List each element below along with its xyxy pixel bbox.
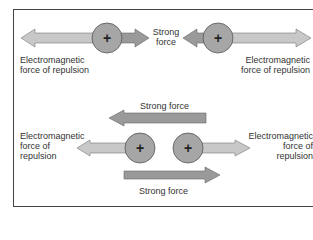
strong-force-label-upper: Strong force (140, 101, 189, 111)
strong-force-arrow-left (109, 110, 206, 126)
strong-force-arrow-right (124, 167, 220, 183)
label-line: Strong (146, 27, 186, 37)
em-repulsion-label-left: Electromagnetic force of repulsion (20, 55, 89, 75)
label-line: Electromagnetic (230, 131, 313, 141)
em-repulsion-label-bottom-left: Electromagnetic force of repulsion (20, 131, 85, 161)
em-repulsion-arrow-right (230, 29, 311, 47)
strong-force-label-top: Strong force (146, 27, 186, 47)
label-line: Electromagnetic (20, 131, 85, 141)
label-line: Electromagnetic (212, 55, 310, 65)
strong-force-label-lower: Strong force (139, 186, 188, 196)
label-line: repulsion (230, 151, 313, 161)
em-repulsion-label-right: Electromagnetic force of repulsion (212, 55, 310, 75)
plus-icon: + (184, 140, 192, 156)
label-line: Electromagnetic (20, 55, 89, 65)
em-repulsion-label-bottom-right: Electromagnetic force of repulsion (230, 131, 313, 161)
plus-icon: + (103, 30, 111, 46)
label-line: force of repulsion (212, 65, 310, 75)
em-repulsion-arrow-left (77, 140, 128, 156)
plus-icon: + (136, 140, 144, 156)
plus-icon: + (214, 30, 222, 46)
strong-force-arrow-right (120, 29, 149, 47)
label-line: force of repulsion (20, 65, 89, 75)
label-line: force of (230, 141, 313, 151)
label-line: repulsion (20, 151, 85, 161)
label-line: force (146, 37, 186, 47)
em-repulsion-arrow-left (21, 29, 100, 47)
label-line: force of (20, 141, 85, 151)
